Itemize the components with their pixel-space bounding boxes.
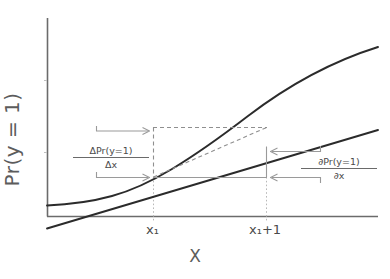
x-tick-label-x1: x₁ (146, 222, 159, 237)
x-tick-label-x1-text: x₁ (146, 222, 159, 237)
partial-derivative-denominator: ∂x (301, 170, 377, 181)
partial-derivative-label: ∂Pr(y=1) ∂x (301, 156, 377, 181)
x-tick-label-x1-plus-1-text: x₁+1 (249, 222, 281, 237)
figure-canvas: Pr(y = 1) X x₁ x₁+1 ΔPr(y=1) Δx ∂Pr(y=1)… (0, 0, 390, 279)
plot-svg (0, 0, 390, 279)
fraction-bar (301, 168, 377, 169)
discrete-change-numerator: ΔPr(y=1) (73, 145, 149, 156)
y-axis-title-wrapper: Pr(y = 1) (0, 0, 40, 279)
partial-derivative-numerator: ∂Pr(y=1) (301, 156, 377, 167)
discrete-change-denominator: Δx (73, 159, 149, 170)
discrete-change-label: ΔPr(y=1) Δx (73, 145, 149, 170)
arrow-stem-lower-left (97, 172, 149, 178)
y-axis-title: Pr(y = 1) (0, 0, 24, 279)
x-tick-dropline-group (154, 177, 267, 221)
derivative-guides (153, 147, 267, 178)
x-axis-title: X (0, 248, 390, 265)
fraction-bar (73, 157, 149, 158)
axis-group (44, 18, 378, 217)
x-tick-label-x1-plus-1: x₁+1 (249, 222, 281, 237)
arrow-stem-upper-left (97, 126, 149, 131)
